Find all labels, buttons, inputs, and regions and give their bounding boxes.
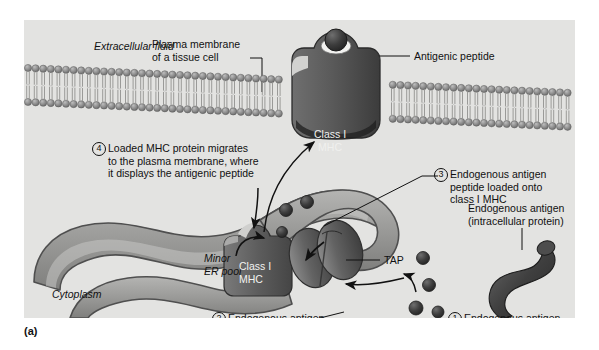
step-2: 2Endogenous antigen peptides enter ER vi… bbox=[212, 312, 351, 318]
step-2-number: 2 bbox=[212, 312, 226, 318]
step-2-text: Endogenous antigen peptides enter ER via… bbox=[228, 312, 351, 318]
step-4-number: 4 bbox=[92, 142, 106, 156]
step-3-text: Endogenous antigen peptide loaded onto c… bbox=[450, 168, 546, 206]
label-cytoplasm: Cytoplasm bbox=[52, 288, 102, 301]
step-1-number: 1 bbox=[448, 312, 462, 318]
step-1: 1Endogenous antigen degraded by protease bbox=[448, 312, 566, 318]
figure-root: Extracellular fluid Plasma membrane of a… bbox=[0, 0, 599, 350]
step-4: 4Loaded MHC protein migrates to the plas… bbox=[92, 142, 259, 180]
step-4-text: Loaded MHC protein migrates to the plasm… bbox=[108, 142, 259, 180]
step-1-text: Endogenous antigen degraded by protease bbox=[464, 312, 566, 318]
label-class-i-mhc-membrane: Class I MHC bbox=[314, 128, 346, 153]
antigenic-peptide-sphere bbox=[325, 29, 347, 51]
figure-caption: (a) bbox=[24, 325, 37, 337]
label-class-i-mhc-er: Class I MHC bbox=[239, 260, 271, 285]
diagram-panel: Extracellular fluid Plasma membrane of a… bbox=[24, 20, 575, 318]
label-minor-er-pool: Minor ER pool bbox=[204, 252, 241, 277]
label-plasma-membrane: Plasma membrane of a tissue cell bbox=[152, 38, 240, 63]
step-3: 3Endogenous antigen peptide loaded onto … bbox=[434, 168, 546, 206]
step-3-number: 3 bbox=[434, 168, 448, 182]
label-antigenic-peptide: Antigenic peptide bbox=[414, 50, 495, 63]
label-tap: TAP bbox=[384, 254, 404, 267]
